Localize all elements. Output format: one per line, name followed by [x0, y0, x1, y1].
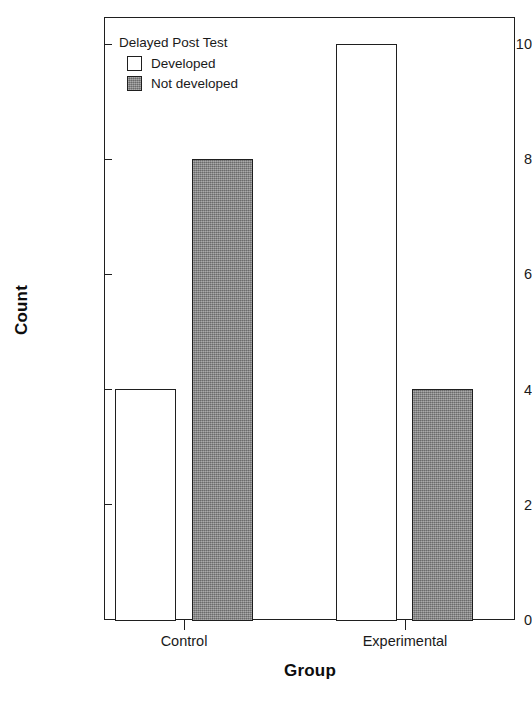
y-tick-mark-10: [105, 44, 112, 45]
bar-chart-figure: 0 2 4 6 8 10 Count Delayed Post Test: [0, 0, 532, 704]
y-tick-mark-4: [105, 389, 112, 390]
y-tick-mark-2: [105, 504, 112, 505]
legend-label-developed: Developed: [151, 56, 216, 71]
plot-area: Delayed Post Test Developed Not develope…: [104, 17, 515, 620]
bar-experimental-not-developed: [412, 389, 473, 621]
y-axis-title: Count: [12, 285, 32, 335]
legend-swatch-developed-icon: [127, 56, 142, 71]
y-tick-mark-6: [105, 274, 112, 275]
x-tick-mark-control: [184, 620, 185, 630]
x-tick-label-control: Control: [161, 634, 208, 649]
x-tick-label-experimental: Experimental: [363, 634, 448, 649]
legend-title: Delayed Post Test: [119, 35, 238, 51]
legend-label-not-developed: Not developed: [151, 76, 238, 91]
legend-swatch-not-developed-icon: [127, 76, 142, 91]
bar-control-developed: [115, 389, 176, 621]
legend-item-not-developed: Not developed: [127, 76, 238, 91]
bar-experimental-developed: [336, 44, 397, 621]
legend-item-developed: Developed: [127, 56, 238, 71]
legend: Delayed Post Test Developed Not develope…: [119, 35, 238, 96]
y-tick-mark-8: [105, 159, 112, 160]
x-axis-title: Group: [284, 661, 336, 681]
bar-control-not-developed: [192, 159, 253, 621]
x-tick-mark-experimental: [405, 620, 406, 630]
